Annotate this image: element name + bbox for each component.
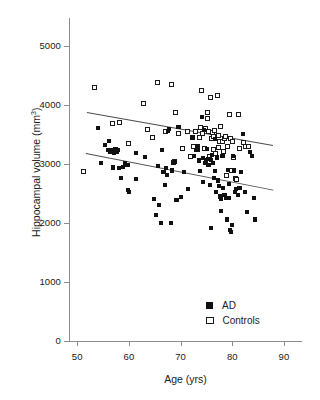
- legend-item-controls: Controls: [206, 313, 260, 328]
- data-point-ad: [186, 187, 190, 191]
- data-point-ad: [252, 196, 256, 200]
- data-point-controls: [172, 159, 177, 164]
- data-point-ad: [250, 154, 254, 158]
- data-point-ad: [110, 148, 114, 152]
- data-point-controls: [155, 80, 160, 85]
- data-point-ad: [234, 187, 238, 191]
- data-point-ad: [222, 193, 226, 197]
- data-point-controls: [231, 155, 236, 160]
- data-point-ad: [213, 137, 217, 141]
- data-point-ad: [239, 170, 243, 174]
- data-point-ad: [204, 158, 208, 162]
- data-point-controls: [228, 136, 233, 141]
- data-point-ad: [215, 155, 219, 159]
- data-point-ad: [208, 157, 212, 161]
- data-point-ad: [205, 147, 209, 151]
- x-tick-90: [284, 341, 285, 346]
- data-point-ad: [201, 180, 205, 184]
- data-point-controls: [117, 120, 122, 125]
- data-point-controls: [206, 129, 211, 134]
- data-point-controls: [224, 173, 229, 178]
- data-point-ad: [152, 197, 156, 201]
- data-point-ad: [217, 184, 221, 188]
- data-point-controls: [205, 110, 210, 115]
- data-point-ad: [202, 128, 206, 132]
- data-point-ad: [160, 148, 164, 152]
- data-point-controls: [92, 85, 97, 90]
- data-point-ad: [220, 154, 224, 158]
- data-point-controls: [212, 128, 217, 133]
- data-point-ad: [223, 193, 227, 197]
- data-point-ad: [210, 153, 214, 157]
- data-point-controls: [217, 139, 222, 144]
- data-point-ad: [173, 160, 177, 164]
- data-point-controls: [234, 177, 239, 182]
- legend-label-ad: AD: [222, 300, 236, 311]
- data-point-ad: [157, 203, 161, 207]
- data-point-controls: [246, 144, 251, 149]
- data-point-controls: [141, 101, 146, 106]
- data-point-ad: [233, 190, 237, 194]
- data-point-ad: [170, 168, 174, 172]
- data-point-ad: [218, 194, 222, 198]
- data-point-ad: [201, 156, 205, 160]
- data-point-ad: [103, 143, 107, 147]
- y-axis-label-tail: ): [30, 108, 42, 112]
- data-point-controls: [213, 151, 218, 156]
- trendline-AD-fit: [85, 153, 272, 191]
- data-point-controls: [171, 160, 176, 165]
- data-point-ad: [166, 129, 170, 133]
- data-point-controls: [169, 82, 174, 87]
- data-point-ad: [113, 147, 117, 151]
- data-point-controls: [126, 141, 131, 146]
- y-tick-label-0: 0: [27, 335, 61, 346]
- data-point-ad: [214, 190, 218, 194]
- x-tick-50: [77, 341, 78, 346]
- data-point-ad: [134, 151, 138, 155]
- data-point-ad: [123, 161, 127, 165]
- data-point-ad: [108, 150, 112, 154]
- y-tick-2000: [64, 223, 69, 224]
- data-point-controls: [230, 139, 235, 144]
- data-point-ad: [219, 197, 223, 201]
- data-point-ad: [248, 150, 252, 154]
- x-tick-label-70: 70: [166, 351, 196, 362]
- data-point-ad: [232, 168, 236, 172]
- data-point-ad: [206, 163, 210, 167]
- data-point-ad: [121, 165, 125, 169]
- data-point-ad: [197, 158, 201, 162]
- data-point-ad: [194, 148, 198, 152]
- data-point-ad: [200, 115, 204, 119]
- data-point-ad: [253, 217, 257, 221]
- data-point-controls: [218, 124, 223, 129]
- data-point-ad: [231, 154, 235, 158]
- data-point-controls: [197, 135, 202, 140]
- data-point-ad: [119, 176, 123, 180]
- x-tick-label-60: 60: [114, 351, 144, 362]
- data-point-ad: [219, 209, 223, 213]
- data-point-controls: [211, 134, 216, 139]
- x-tick-80: [232, 341, 233, 346]
- data-point-controls: [221, 149, 226, 154]
- x-tick-70: [181, 341, 182, 346]
- data-point-ad: [111, 165, 115, 169]
- data-point-controls: [220, 139, 225, 144]
- data-point-ad: [206, 157, 210, 161]
- data-point-controls: [227, 112, 232, 117]
- data-point-controls: [191, 144, 196, 149]
- data-point-ad: [159, 221, 163, 225]
- data-point-controls: [202, 146, 207, 151]
- legend-label-controls: Controls: [223, 315, 260, 326]
- data-point-ad: [213, 169, 217, 173]
- legend-swatch-controls-icon: [206, 317, 214, 325]
- data-point-ad: [143, 155, 147, 159]
- data-point-ad: [163, 183, 167, 187]
- data-point-controls: [203, 126, 208, 131]
- data-point-controls: [208, 95, 213, 100]
- data-point-controls: [163, 129, 168, 134]
- data-point-ad: [227, 182, 231, 186]
- data-point-controls: [150, 135, 155, 140]
- data-point-controls: [210, 130, 215, 135]
- trendline-Controls-fit: [86, 112, 272, 146]
- data-point-ad: [154, 213, 158, 217]
